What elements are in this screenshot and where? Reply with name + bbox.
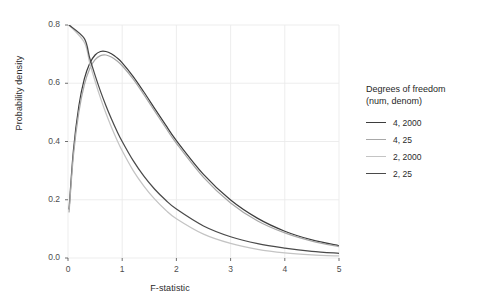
x-tick-label: 0	[58, 264, 78, 274]
legend-item: 4, 2000	[366, 114, 484, 131]
x-tick-label: 1	[112, 264, 132, 274]
f-distribution-chart: Probability density F-statistic 0.00.20.…	[0, 0, 487, 304]
y-tick-label: 0.4	[30, 136, 60, 146]
y-tick-label: 0.6	[30, 77, 60, 87]
x-axis-title: F-statistic	[0, 283, 340, 293]
legend-item: 4, 25	[366, 131, 484, 148]
legend-item-label: 4, 2000	[393, 118, 421, 128]
y-tick-label: 0.8	[30, 19, 60, 29]
legend-item: 2, 2000	[366, 148, 484, 165]
x-tick-label: 3	[221, 264, 241, 274]
legend: Degrees of freedom (num, denom) 4, 20004…	[366, 84, 484, 182]
legend-line-icon	[366, 173, 386, 174]
legend-line-icon	[366, 122, 386, 123]
legend-title: Degrees of freedom (num, denom)	[366, 84, 484, 107]
x-tick-label: 5	[329, 264, 349, 274]
y-tick-label: 0.2	[30, 194, 60, 204]
x-tick-label: 2	[166, 264, 186, 274]
y-axis-title: Probability density	[14, 38, 24, 148]
legend-item-label: 4, 25	[393, 135, 412, 145]
legend-line-icon	[366, 139, 386, 140]
legend-items: 4, 20004, 252, 20002, 25	[366, 114, 484, 182]
legend-item: 2, 25	[366, 165, 484, 182]
x-tick-label: 4	[275, 264, 295, 274]
legend-item-label: 2, 25	[393, 169, 412, 179]
legend-line-icon	[366, 156, 386, 157]
legend-item-label: 2, 2000	[393, 152, 421, 162]
y-tick-label: 0.0	[30, 252, 60, 262]
